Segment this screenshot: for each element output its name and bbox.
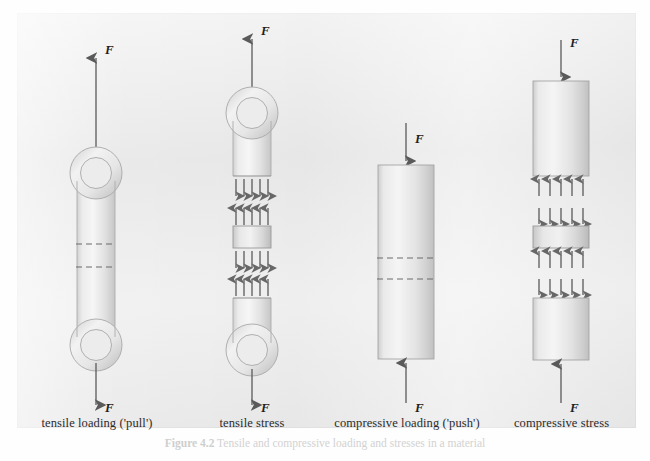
stress-arrow-row-2	[236, 208, 268, 225]
panel-caption-tensile-stress: tensile stress	[177, 416, 327, 431]
stress-arrow-row-1	[539, 179, 583, 196]
panel-caption-tensile-loading: tensile loading ('pull')	[17, 416, 177, 431]
bottom-force-label: F	[415, 400, 424, 416]
figure-caption-text: Tensile and compressive loading and stre…	[217, 437, 485, 449]
top-force-label: F	[261, 23, 270, 39]
panel-tensile-loading: F F tensile loading ('pull')	[17, 13, 177, 428]
panel-caption-compressive-stress: compressive stress	[487, 416, 636, 431]
compressive-stress-drawing	[487, 13, 636, 428]
upper-piece-body	[533, 81, 589, 176]
bottom-force-label: F	[105, 400, 114, 416]
panel-compressive-loading: F F compressive loading ('push')	[327, 13, 487, 428]
column-body	[378, 165, 434, 359]
compressive-loading-drawing	[327, 13, 487, 428]
bottom-force-label: F	[570, 400, 579, 416]
bottom-eyelet-hole	[81, 330, 112, 361]
stress-arrow-row-4	[539, 279, 583, 295]
figure-caption-number: Figure 4.2	[165, 437, 215, 449]
bottom-eyelet-hole	[237, 335, 268, 366]
tensile-stress-drawing	[177, 13, 327, 428]
panel-tensile-stress: F F tensile stress	[177, 13, 327, 428]
top-eyelet-hole	[237, 98, 268, 129]
panel-compressive-stress: F F compressive stress	[487, 13, 636, 428]
top-eyelet-hole	[81, 158, 112, 189]
top-force-label: F	[570, 35, 579, 51]
top-force-label: F	[105, 42, 114, 58]
top-force-label: F	[415, 131, 424, 147]
stress-arrow-row-3	[236, 251, 268, 268]
panel-caption-compressive-loading: compressive loading ('push')	[327, 416, 487, 431]
stress-arrow-row-4	[236, 279, 268, 296]
figure-panel: F F tensile loading ('pull')	[17, 13, 636, 428]
middle-block	[533, 226, 589, 248]
bottom-force-label: F	[261, 400, 270, 416]
figure-root: F F tensile loading ('pull')	[0, 0, 650, 461]
stress-arrow-row-2	[539, 208, 583, 224]
stress-arrow-row-1	[236, 179, 268, 196]
figure-caption: Figure 4.2 Tensile and compressive loadi…	[0, 437, 650, 449]
middle-block	[233, 226, 271, 248]
lower-piece-body	[533, 298, 589, 360]
tensile-loading-drawing	[17, 13, 177, 428]
stress-arrow-row-3	[539, 251, 583, 268]
